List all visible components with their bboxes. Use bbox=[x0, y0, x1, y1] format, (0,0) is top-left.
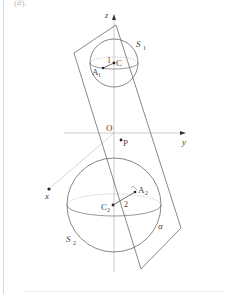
z-axis-label: z bbox=[104, 11, 109, 20]
radius-2-label: 2 bbox=[124, 200, 128, 209]
z-axis-arrow-icon bbox=[112, 14, 116, 20]
sphere-s2-label: S bbox=[66, 234, 71, 244]
point-a1 bbox=[102, 67, 105, 70]
y-axis-arrow-icon bbox=[180, 131, 186, 135]
point-a2-subscript: 2 bbox=[145, 190, 148, 196]
point-p-label: P bbox=[123, 138, 128, 148]
point-c2-subscript: 2 bbox=[107, 207, 110, 213]
point-a1-subscript: 1 bbox=[98, 72, 101, 78]
point-p bbox=[120, 139, 123, 142]
point-a2 bbox=[134, 191, 137, 194]
point-c1-label: C bbox=[116, 58, 122, 68]
sphere-s2-subscript: 2 bbox=[73, 240, 76, 246]
sphere-s1-label: S bbox=[136, 39, 141, 49]
origin-label: O bbox=[106, 123, 113, 133]
plane-alpha-label: α bbox=[158, 221, 163, 231]
radius-1-label: 1 bbox=[107, 56, 111, 65]
x-axis bbox=[49, 133, 114, 189]
right-angle-marker-icon bbox=[131, 186, 137, 190]
sphere-s1-subscript: 1 bbox=[143, 45, 146, 51]
y-axis-label: y bbox=[181, 137, 186, 147]
geometry-diagram: z y x O P α S 1 C 1 A 1 S 2 C 2 2 A 2 bbox=[0, 0, 230, 294]
bottom-rule bbox=[24, 291, 224, 292]
point-a2-label: A bbox=[138, 185, 145, 195]
x-axis-label: x bbox=[44, 191, 49, 201]
